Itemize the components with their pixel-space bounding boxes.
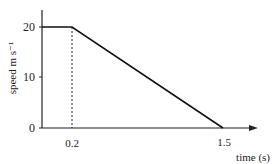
y-tick-label-20: 20	[23, 20, 35, 34]
speed-time-chart: 20 10 0 speed m s⁻¹ 0.2 1.5 time (s)	[0, 0, 273, 164]
x-tick-label-0-2: 0.2	[65, 137, 79, 149]
x-tick-label-1-5: 1.5	[217, 136, 231, 148]
x-axis-label: time (s)	[236, 151, 270, 164]
x-axis-arrow-icon	[249, 125, 258, 131]
y-tick-label-0: 0	[29, 121, 35, 135]
y-tick-label-10: 10	[23, 70, 35, 84]
y-axis-label: speed m s⁻¹	[6, 42, 18, 95]
speed-series-line	[42, 27, 223, 128]
